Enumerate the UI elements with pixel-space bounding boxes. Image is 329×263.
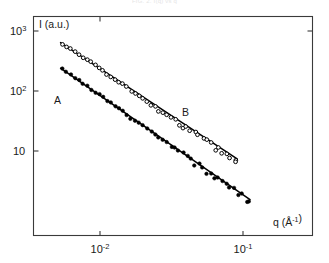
data-point	[205, 172, 209, 176]
data-point	[200, 166, 204, 170]
curve-label-b: B	[182, 106, 189, 118]
data-point	[173, 146, 177, 150]
scatter-plot: 103 102 10 10-2 10-1 I (a.u.) q (Å-1) A …	[0, 0, 329, 263]
data-point	[165, 140, 169, 144]
data-point	[225, 182, 229, 186]
data-point	[101, 68, 105, 72]
data-point	[184, 125, 188, 129]
x-axis-title: q (Å-1)	[273, 212, 302, 228]
x-tick-label-0p1: 10-1	[234, 242, 253, 255]
data-point	[205, 138, 209, 142]
data-point	[209, 141, 213, 145]
data-point	[129, 117, 133, 121]
data-point	[157, 110, 161, 114]
data-point	[106, 99, 110, 103]
series-b	[61, 43, 238, 164]
data-point	[124, 85, 128, 89]
data-point	[64, 70, 68, 74]
data-point	[145, 100, 149, 104]
data-point	[188, 129, 192, 133]
data-point	[137, 121, 141, 125]
data-point	[178, 124, 182, 128]
data-point	[77, 53, 81, 57]
data-point	[186, 154, 190, 158]
data-point	[227, 186, 231, 190]
data-point	[109, 101, 113, 105]
data-point	[117, 80, 121, 84]
x-tick-label-0p01: 10-2	[91, 242, 110, 255]
data-point	[141, 123, 145, 127]
data-point	[182, 151, 186, 155]
data-point	[86, 84, 90, 88]
data-point	[198, 162, 202, 166]
data-point	[240, 192, 244, 196]
data-point	[68, 47, 72, 51]
data-point	[61, 67, 65, 71]
data-point	[161, 111, 165, 115]
data-point	[209, 172, 213, 176]
curve-label-a: A	[54, 94, 61, 106]
data-point	[101, 95, 105, 99]
data-point	[105, 73, 109, 77]
data-point	[228, 156, 232, 160]
data-point	[149, 103, 153, 107]
data-point	[114, 105, 118, 109]
data-point	[94, 91, 98, 95]
data-point	[81, 56, 85, 60]
data-point	[154, 105, 158, 109]
data-point	[137, 94, 141, 98]
data-point	[90, 88, 94, 92]
data-point	[141, 97, 145, 101]
data-point	[65, 45, 69, 49]
data-point	[69, 73, 73, 77]
data-point	[121, 82, 125, 86]
data-point	[145, 127, 149, 131]
data-point	[169, 116, 173, 120]
data-point	[216, 176, 220, 180]
data-point	[73, 50, 77, 54]
y-tick-label-1000: 103	[10, 24, 26, 37]
data-point	[220, 151, 224, 155]
data-point	[221, 179, 225, 183]
data-point	[121, 109, 125, 113]
figure-root: FIG. 2. I(q) vs q 103 102 10 10-2 10-1 I…	[0, 0, 329, 263]
data-point	[150, 130, 154, 134]
data-point	[134, 92, 138, 96]
data-point	[247, 200, 251, 204]
data-point	[154, 133, 158, 137]
data-point	[174, 117, 178, 121]
data-point	[237, 193, 241, 197]
x-axis-ticks	[100, 17, 243, 237]
series-a	[61, 67, 251, 204]
data-point	[78, 78, 82, 82]
data-point	[133, 119, 137, 123]
data-point	[61, 43, 65, 47]
y-axis-ticks	[34, 31, 313, 151]
data-point	[125, 113, 128, 117]
data-point	[225, 152, 229, 156]
data-point	[117, 106, 121, 110]
series-layer	[61, 43, 251, 204]
data-point	[232, 186, 236, 190]
y-tick-label-100: 102	[10, 84, 26, 97]
data-point	[161, 138, 165, 142]
y-axis-title: I (a.u.)	[39, 18, 69, 30]
y-tick-label-10: 10	[13, 145, 25, 157]
data-point	[130, 90, 134, 94]
data-point	[165, 113, 169, 117]
data-point	[89, 60, 93, 64]
data-point	[189, 157, 193, 161]
data-point	[157, 136, 161, 140]
data-point	[81, 82, 85, 86]
data-point	[74, 76, 78, 80]
data-point	[113, 78, 117, 82]
data-point	[176, 149, 180, 153]
data-point	[109, 75, 113, 79]
data-point	[98, 92, 102, 96]
data-point	[196, 133, 200, 137]
data-point	[193, 164, 197, 168]
data-point	[234, 160, 238, 164]
data-point	[94, 63, 98, 67]
data-point	[217, 146, 221, 150]
